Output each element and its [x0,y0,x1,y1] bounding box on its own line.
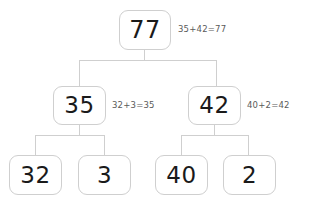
connector-mid-left-horizontal-bar [35,135,105,136]
node-leaf-40[interactable]: 40 [155,155,208,195]
node-mid-left-35[interactable]: 35 [53,86,106,125]
connector-mid-right-to-leaf-3 [181,135,182,155]
connector-root-to-mid-right [216,60,217,86]
connector-root-horizontal-bar [79,60,217,61]
node-root-77[interactable]: 77 [119,10,171,50]
annotation-root-equation: 35+42=77 [178,24,226,34]
number-bond-tree-diagram: 77 35+42=77 35 32+3=35 42 40+2=42 32 3 4… [0,0,311,207]
connector-mid-left-to-leaf-1 [35,135,36,155]
node-leaf-32[interactable]: 32 [9,155,62,195]
node-leaf-2[interactable]: 2 [223,155,276,195]
connector-mid-right-horizontal-bar [181,135,249,136]
node-mid-right-42[interactable]: 42 [188,86,241,125]
connector-mid-right-to-leaf-4 [248,135,249,155]
annotation-mid-right-equation: 40+2=42 [247,100,290,110]
annotation-mid-left-equation: 32+3=35 [112,100,155,110]
connector-mid-left-to-leaf-2 [104,135,105,155]
connector-root-to-mid-left [79,60,80,86]
node-leaf-3[interactable]: 3 [78,155,131,195]
